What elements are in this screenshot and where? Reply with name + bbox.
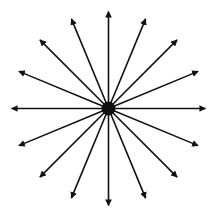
arrow-14 [109, 109, 178, 178]
arrow-6 [40, 40, 109, 109]
center-dot [102, 102, 116, 116]
arrow-2 [109, 40, 178, 109]
radial-arrows-diagram [0, 0, 216, 212]
arrow-10 [40, 109, 109, 178]
